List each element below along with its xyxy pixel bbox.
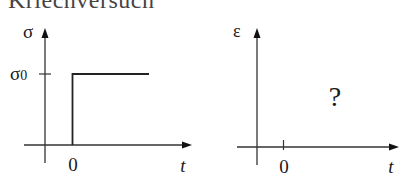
right-x-axis-label: t <box>388 156 394 177</box>
left-y-tick-label: σ0 <box>10 63 27 84</box>
left-x-tick-label: 0 <box>68 154 78 175</box>
stress-step-curve <box>73 74 150 145</box>
right-y-axis-label: ε <box>233 21 241 41</box>
right-plot: ε 0 t ? <box>233 21 399 177</box>
stress-strain-figure: σ σ0 0 t ε 0 t ? <box>0 0 406 179</box>
left-x-axis-arrow-icon <box>182 142 192 149</box>
left-plot: σ σ0 0 t <box>10 21 192 176</box>
left-y-axis-label: σ <box>23 21 33 42</box>
unknown-response-marker: ? <box>329 81 341 112</box>
left-y-axis-arrow-icon <box>42 28 49 38</box>
right-x-tick-label: 0 <box>279 156 289 177</box>
right-y-axis-arrow-icon <box>254 28 261 38</box>
left-x-axis-label: t <box>180 155 186 176</box>
right-x-axis-arrow-icon <box>389 144 399 151</box>
